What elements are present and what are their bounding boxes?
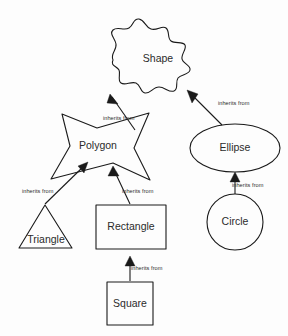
node-label-rectangle: Rectangle [107,220,154,232]
node-triangle[interactable]: Triangle [19,205,72,248]
edge-label-inherits-from: inherits from [232,182,264,188]
node-shape[interactable]: Shape [112,19,190,93]
arrowhead-icon [230,172,240,182]
arrowhead-icon [108,166,119,176]
node-label-ellipse: Ellipse [220,141,251,153]
node-ellipse[interactable]: Ellipse [190,124,280,172]
diagram-nodes: Shape Polygon Ellipse Circle Triangle Re… [19,19,280,325]
edge-circle-to-ellipse[interactable]: inherits from [230,172,264,194]
arrowhead-icon [107,94,118,104]
node-rectangle[interactable]: Rectangle [96,205,166,249]
edge-label-inherits-from: inherits from [22,188,54,194]
inheritance-diagram-canvas: Shape Polygon Ellipse Circle Triangle Re… [0,0,288,336]
arrowhead-icon [187,90,198,103]
edge-label-inherits-from: inherits from [131,265,163,271]
node-square[interactable]: Square [107,282,153,325]
edge-line [45,165,85,204]
node-label-polygon: Polygon [79,139,117,151]
edge-label-inherits-from: inherits from [103,115,135,121]
edge-label-inherits-from: inherits from [218,100,250,106]
diagram-edges: inherits from inherits from inherits fro… [22,90,264,281]
node-label-triangle: Triangle [27,233,65,245]
node-label-shape: Shape [143,52,174,64]
node-label-square: Square [113,297,147,309]
edge-ellipse-to-shape[interactable]: inherits from [187,90,250,125]
edge-label-inherits-from: inherits from [122,188,154,194]
node-polygon[interactable]: Polygon [51,113,150,180]
node-label-circle: Circle [222,215,249,227]
edge-square-to-rectangle[interactable]: inherits from [125,256,163,281]
edge-triangle-to-polygon[interactable]: inherits from [22,162,88,204]
node-circle[interactable]: Circle [207,194,263,250]
